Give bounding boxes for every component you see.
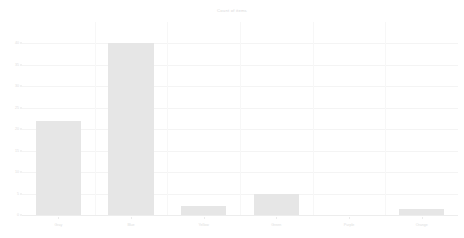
y-axis-tick-label: 40 — [15, 41, 19, 45]
x-axis-tick-mark — [422, 217, 423, 219]
bar[interactable] — [108, 43, 153, 215]
bar[interactable] — [399, 209, 444, 215]
plot-area — [22, 22, 458, 215]
bar-chart: Count of items 0510152025303540 GrayBlue… — [0, 0, 464, 238]
y-axis-tick-label: 10 — [15, 170, 19, 174]
x-axis-tick-mark — [276, 217, 277, 219]
y-axis-tick-label: 30 — [15, 84, 19, 88]
x-axis-tick-label: Blue — [127, 223, 134, 227]
x-axis: GrayBlueYellowGreenPurpleOrange — [22, 217, 458, 235]
x-gridline — [240, 22, 241, 215]
x-axis-tick-label: Purple — [344, 223, 354, 227]
x-axis-tick-mark — [58, 217, 59, 219]
x-gridline — [385, 22, 386, 215]
y-gridline — [22, 215, 458, 216]
y-axis-tick-label: 15 — [15, 149, 19, 153]
x-axis-tick-label: Yellow — [199, 223, 209, 227]
bar[interactable] — [36, 121, 81, 215]
chart-title: Count of items — [0, 8, 464, 13]
x-axis-tick-mark — [349, 217, 350, 219]
x-axis-tick-mark — [204, 217, 205, 219]
x-gridline — [95, 22, 96, 215]
bar[interactable] — [254, 194, 299, 215]
x-gridline — [313, 22, 314, 215]
y-axis-tick-label: 0 — [17, 213, 19, 217]
y-axis-tick-label: 25 — [15, 106, 19, 110]
x-axis-tick-label: Gray — [54, 223, 62, 227]
x-axis-tick-label: Green — [271, 223, 281, 227]
x-axis-tick-label: Orange — [416, 223, 428, 227]
y-axis: 0510152025303540 — [0, 22, 22, 215]
x-gridline — [167, 22, 168, 215]
x-axis-tick-mark — [131, 217, 132, 219]
y-axis-tick-label: 5 — [17, 192, 19, 196]
y-axis-tick-label: 20 — [15, 127, 19, 131]
y-axis-tick-label: 35 — [15, 63, 19, 67]
bar[interactable] — [181, 206, 226, 215]
